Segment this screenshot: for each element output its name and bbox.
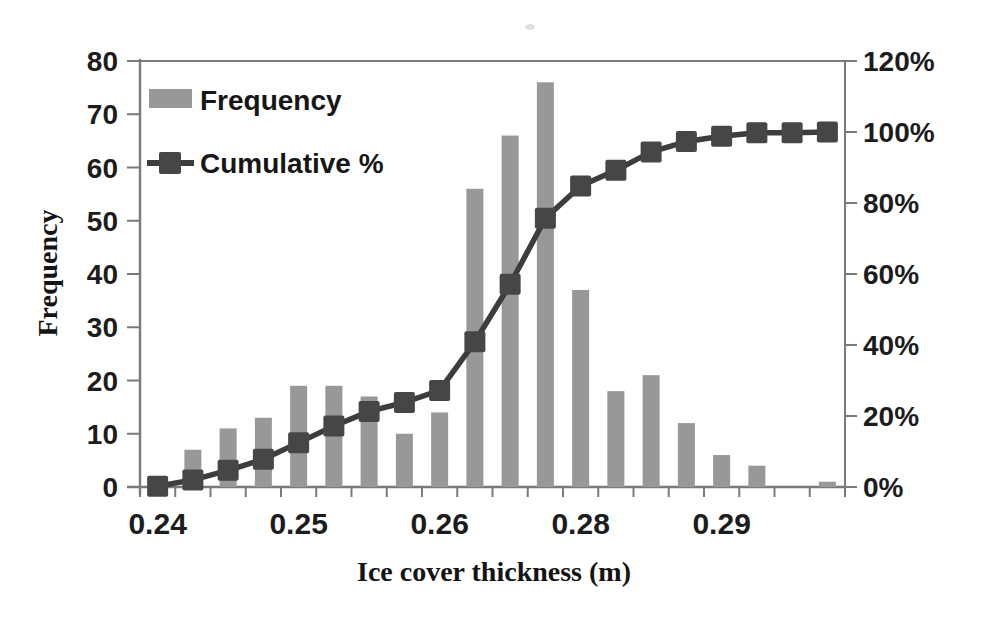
x-axis-tick-label: 0.24 (128, 507, 187, 540)
x-axis-tick-label: 0.25 (269, 507, 327, 540)
cumulative-marker (429, 380, 450, 401)
cumulative-marker (394, 392, 415, 413)
cumulative-marker (147, 476, 168, 497)
frequency-bar (431, 412, 448, 487)
frequency-bars (149, 82, 836, 487)
cumulative-marker (288, 432, 309, 453)
left-axis-tick-label: 40 (87, 259, 118, 290)
cumulative-marker (711, 126, 732, 147)
cumulative-marker (605, 160, 626, 181)
left-axis-tick-label: 50 (87, 206, 118, 237)
frequency-bar (678, 423, 695, 487)
x-axis-title: Ice cover thickness (m) (357, 556, 631, 587)
right-axis-tick-label: 100% (863, 117, 935, 148)
cumulative-marker (253, 449, 274, 470)
x-axis-tick-label: 0.28 (551, 507, 609, 540)
cumulative-marker (182, 469, 203, 490)
right-axis-tick-label: 80% (863, 188, 919, 219)
left-axis-tick-label: 30 (87, 312, 118, 343)
left-axis-tick-label: 80 (87, 46, 118, 77)
left-axis-tick-label: 20 (87, 366, 118, 397)
pareto-chart: 010203040506070800%20%40%60%80%100%120%0… (0, 0, 983, 623)
right-axis-tick-label: 60% (863, 259, 919, 290)
cumulative-marker (782, 122, 803, 143)
legend: Frequency Cumulative % (147, 85, 384, 179)
legend-frequency-label: Frequency (200, 85, 342, 116)
cumulative-marker (218, 460, 239, 481)
left-axis-tick-label: 60 (87, 153, 118, 184)
legend-cumulative-label: Cumulative % (200, 148, 384, 179)
chart-figure: 010203040506070800%20%40%60%80%100%120%0… (0, 0, 983, 623)
right-axis-tick-label: 20% (863, 401, 919, 432)
left-axis-tick-label: 0 (102, 472, 118, 503)
right-axis-tick-label: 0% (863, 472, 904, 503)
x-axis-tick-label: 0.26 (410, 507, 468, 540)
frequency-bar (713, 455, 730, 487)
right-axis-tick-label: 120% (863, 46, 935, 77)
frequency-bar (748, 466, 765, 487)
legend-cumulative-marker (159, 152, 181, 174)
cumulative-marker (570, 175, 591, 196)
cumulative-marker (464, 331, 485, 352)
frequency-bar (607, 391, 624, 487)
y-axis-title: Frequency (32, 209, 63, 336)
frequency-bar (396, 434, 413, 487)
frequency-bar (502, 136, 519, 487)
cumulative-marker (535, 208, 556, 229)
cumulative-marker (500, 274, 521, 295)
left-axis-tick-label: 10 (87, 419, 118, 450)
legend-frequency-swatch (149, 89, 192, 108)
left-axis-tick-label: 70 (87, 99, 118, 130)
cumulative-marker (641, 141, 662, 162)
right-axis-tick-label: 40% (863, 330, 919, 361)
cumulative-marker (746, 122, 767, 143)
frequency-bar (572, 290, 589, 487)
frequency-bar (537, 82, 554, 487)
frequency-bar (819, 482, 836, 487)
scan-artifact-dot (525, 24, 535, 30)
frequency-bar (643, 375, 660, 487)
cumulative-marker (359, 401, 380, 422)
cumulative-marker (676, 131, 697, 152)
cumulative-marker (817, 122, 838, 143)
x-axis-tick-label: 0.29 (692, 507, 750, 540)
cumulative-marker (323, 415, 344, 436)
